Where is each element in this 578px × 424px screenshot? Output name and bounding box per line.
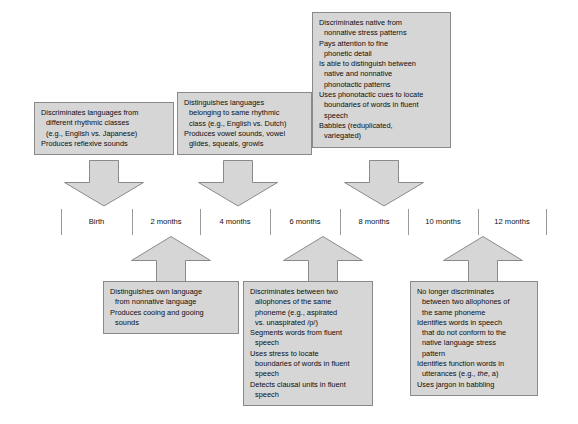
milestone-line: sounds [110, 318, 232, 328]
milestone-line: Pays attention to fine [319, 39, 444, 49]
arrow-birth-down [64, 160, 144, 207]
milestone-line: Uses phonotactic cues to locate [319, 90, 444, 100]
timeline-label-birth: Birth [61, 217, 132, 227]
milestone-line: Babbles (reduplicated, [319, 121, 444, 131]
milestone-line: (e.g., English vs. Japanese) [41, 129, 167, 139]
milestone-line: phonetic detail [319, 49, 444, 59]
timeline-label-12-months: 12 months [478, 217, 546, 227]
milestone-line: speech [250, 369, 366, 379]
milestone-box-4-months: Distinguishes languagesbelonging to same… [177, 92, 312, 155]
milestone-line: Segments words from fluent [250, 328, 366, 338]
milestone-line: Identifies words in speech [417, 318, 531, 328]
milestone-line: nonnative stress patterns [319, 28, 444, 38]
timeline-label-10-months: 10 months [408, 217, 478, 227]
arrow-10-months-up [443, 236, 523, 283]
milestone-line: vs. unaspirated /p/) [250, 318, 366, 328]
milestone-line: Produces cooing and gooing [110, 308, 232, 318]
timeline-label-4-months: 4 months [200, 217, 270, 227]
milestone-line: phonotactic patterns [319, 80, 444, 90]
milestone-line: speech [250, 338, 366, 348]
milestone-line: speech [250, 390, 366, 400]
emphasized-word: the [477, 369, 487, 378]
milestone-line: Is able to distinguish between [319, 59, 444, 69]
arrow-2-months-up [131, 236, 211, 283]
milestone-line: that do not conform to the [417, 328, 531, 338]
milestone-box-2-months: Distinguishes own languagefrom nonnative… [103, 281, 239, 334]
milestone-line: allophones of the same [250, 297, 366, 307]
milestone-line: phoneme (e.g., aspirated [250, 308, 366, 318]
milestone-line: the same phoneme [417, 308, 531, 318]
arrow-6-months-up [283, 236, 363, 283]
milestone-line: belonging to same rhythmic [184, 108, 305, 118]
timeline-label-8-months: 8 months [340, 217, 408, 227]
milestone-line: Discriminates between two [250, 287, 366, 297]
milestone-line: different rhythmic classes [41, 118, 167, 128]
milestone-line: native language stress [417, 338, 531, 348]
milestone-line: utterances (e.g., the, a) [417, 369, 531, 379]
diagram-canvas: Discriminates languages fromdifferent rh… [0, 0, 578, 424]
milestone-line: glides, squeals, growls [184, 139, 305, 149]
milestone-line: Produces vowel sounds, vowel [184, 129, 305, 139]
milestone-line: from nonnative language [110, 297, 232, 307]
milestone-line: boundaries of words in fluent [250, 359, 366, 369]
milestone-line: variegated) [319, 131, 444, 141]
milestone-line: between two allophones of [417, 297, 531, 307]
milestone-line: pattern [417, 349, 531, 359]
milestone-line: Identifies function words in [417, 359, 531, 369]
milestone-line: class (e.g., English vs. Dutch) [184, 119, 305, 129]
milestone-line: Distinguishes own language [110, 287, 232, 297]
milestone-box-10-months: No longer discriminatesbetween two allop… [410, 281, 538, 396]
milestone-box-6-months: Discriminates between twoallophones of t… [243, 281, 373, 406]
timeline-label-6-months: 6 months [270, 217, 340, 227]
milestone-line: Distinguishes languages [184, 98, 305, 108]
milestone-line: Produces reflexive sounds [41, 139, 167, 149]
milestone-box-birth: Discriminates languages fromdifferent rh… [34, 102, 174, 155]
milestone-line: Uses stress to locate [250, 349, 366, 359]
milestone-line: No longer discriminates [417, 287, 531, 297]
milestone-line: boundaries of words in fluent [319, 100, 444, 110]
milestone-box-8-months: Discriminates native fromnonnative stres… [312, 12, 451, 148]
milestone-line: Detects clausal units in fluent [250, 380, 366, 390]
milestone-line: speech [319, 111, 444, 121]
arrow-8-months-down [344, 160, 424, 207]
timeline-tick [546, 209, 547, 235]
timeline-label-2-months: 2 months [132, 217, 200, 227]
milestone-line: Discriminates native from [319, 18, 444, 28]
arrow-4-months-down [198, 160, 278, 207]
milestone-line: Discriminates languages from [41, 108, 167, 118]
milestone-line: Uses jargon in babbling [417, 380, 531, 390]
milestone-line: native and nonnative [319, 69, 444, 79]
